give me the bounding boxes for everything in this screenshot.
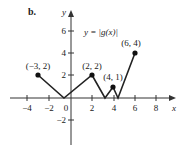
y-tick-label: 2	[62, 70, 67, 80]
y-tick-label: 6	[62, 26, 67, 36]
y-tick-label: 4	[62, 48, 67, 58]
x-tick-label: −4	[22, 103, 32, 113]
point-marker	[110, 84, 115, 89]
x-axis-label: x	[171, 103, 176, 113]
point-marker	[132, 50, 137, 55]
point-label: (6, 4)	[121, 38, 141, 48]
x-tick-label: 0	[64, 103, 69, 113]
point-label: (−3, 2)	[26, 61, 51, 71]
point-label: (4, 1)	[103, 72, 123, 82]
x-tick-label: 2	[90, 103, 95, 113]
y-axis-label: y	[61, 7, 66, 17]
y-tick-label: −2	[56, 115, 66, 125]
x-tick-label: 6	[133, 103, 138, 113]
x-tick-label: 4	[112, 103, 117, 113]
point-label: (2, 2)	[82, 61, 102, 71]
y-axis-arrow-icon	[68, 10, 74, 17]
x-tick-label: −2	[44, 103, 54, 113]
point-marker	[89, 72, 94, 77]
panel-label: b.	[28, 6, 37, 17]
graph: −4 −2 0 2 4 6 8 x 6 4 2 −2 y b. y = |g(x…	[0, 0, 182, 156]
x-tick-label: 8	[154, 103, 159, 113]
point-marker	[35, 72, 40, 77]
function-label: y = |g(x)|	[83, 27, 118, 37]
x-axis-arrow-icon	[169, 95, 176, 101]
